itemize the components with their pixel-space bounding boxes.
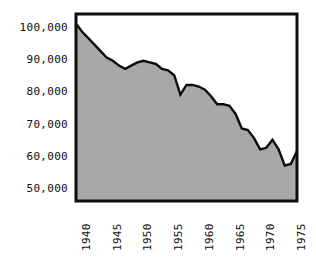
area-chart: 100,00090,00080,00070,00060,00050,000 19… (0, 0, 316, 262)
x-tick-label: 1975 (296, 223, 307, 251)
x-tick-label: 1970 (265, 223, 276, 251)
x-tick-label: 1950 (142, 223, 153, 251)
x-tick-label: 1940 (81, 223, 92, 251)
x-tick-label: 1965 (235, 223, 246, 251)
x-axis: 19401945195019551960196519701975 (0, 0, 316, 262)
x-tick-label: 1960 (204, 223, 215, 251)
x-tick-label: 1945 (112, 223, 123, 251)
x-tick-label: 1955 (173, 223, 184, 251)
